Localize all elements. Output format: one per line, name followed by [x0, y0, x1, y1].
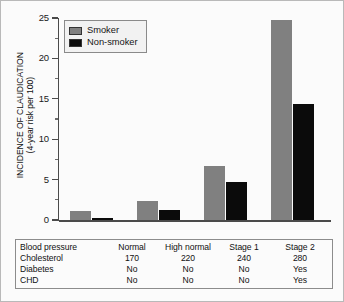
y-tick-label: 20 — [39, 53, 49, 63]
table-cell: No — [104, 275, 160, 286]
table-row: DiabetesNoNoNoYes — [20, 264, 328, 275]
table-row: Blood pressureNormalHigh normalStage 1St… — [20, 242, 328, 253]
table-cell: Yes — [272, 275, 328, 286]
y-tick-label: 25 — [39, 13, 49, 23]
bar-non-smoker — [226, 182, 247, 220]
bar-smoker — [271, 20, 292, 220]
x-axis-line — [59, 220, 331, 222]
legend: SmokerNon-smoker — [64, 20, 147, 53]
table-cell: No — [216, 275, 272, 286]
table-cell: No — [104, 264, 160, 275]
bar-non-smoker — [159, 210, 180, 221]
table-row-label: Diabetes — [20, 264, 104, 275]
legend-item: Smoker — [69, 25, 138, 36]
legend-label: Smoker — [87, 26, 119, 35]
table-cell: 240 — [216, 253, 272, 264]
y-tick-label: 0 — [44, 215, 49, 225]
legend-label: Non-smoker — [87, 38, 138, 47]
data-table: Blood pressureNormalHigh normalStage 1St… — [15, 239, 333, 289]
figure-container: 2520151050 INCIDENCE OF CLAUDICATION (4-… — [0, 0, 344, 302]
table-cell: Stage 1 — [216, 242, 272, 253]
bar-smoker — [70, 211, 91, 220]
bar-chart: 2520151050 INCIDENCE OF CLAUDICATION (4-… — [1, 1, 344, 237]
y-axis-title: INCIDENCE OF CLAUDICATION (4-year risk p… — [15, 15, 35, 215]
table-cell: High normal — [160, 242, 216, 253]
bar-non-smoker — [293, 104, 314, 220]
table-row-label: Blood pressure — [20, 242, 104, 253]
table-row: CHDNoNoNoYes — [20, 275, 328, 286]
table-cell: No — [216, 264, 272, 275]
y-tick-label: 5 — [44, 175, 49, 185]
legend-swatch-icon — [69, 39, 82, 47]
table-row: Cholesterol170220240280 — [20, 253, 328, 264]
table-cell: No — [160, 275, 216, 286]
table-cell: Yes — [272, 264, 328, 275]
table-cell: 220 — [160, 253, 216, 264]
table-cell: Normal — [104, 242, 160, 253]
bar-non-smoker — [92, 218, 113, 220]
bar-smoker — [137, 201, 158, 220]
table-cell: 280 — [272, 253, 328, 264]
y-tick-label: 10 — [39, 134, 49, 144]
bar-group — [260, 18, 327, 220]
table-row-label: CHD — [20, 275, 104, 286]
bar-group — [193, 18, 260, 220]
covariate-table: Blood pressureNormalHigh normalStage 1St… — [20, 242, 328, 286]
y-axis-title-line-2: (4-year risk per 100) — [25, 15, 35, 215]
legend-item: Non-smoker — [69, 37, 138, 48]
legend-swatch-icon — [69, 27, 82, 35]
table-row-label: Cholesterol — [20, 253, 104, 264]
y-axis-title-line-1: INCIDENCE OF CLAUDICATION — [15, 15, 25, 215]
y-tick-label: 15 — [39, 94, 49, 104]
table-cell: Stage 2 — [272, 242, 328, 253]
table-cell: No — [160, 264, 216, 275]
bar-smoker — [204, 166, 225, 220]
table-cell: 170 — [104, 253, 160, 264]
